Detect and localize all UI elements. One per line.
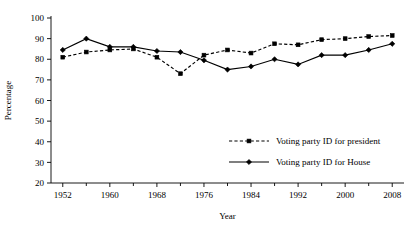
x-tick-label: 2008: [383, 190, 402, 200]
y-axis-title: Percentage: [3, 81, 13, 120]
y-tick-label: 100: [31, 13, 45, 23]
legend-label-1: Voting party ID for president: [276, 136, 381, 146]
data-point-marker: [226, 48, 230, 52]
data-point-marker: [155, 55, 159, 59]
data-point-marker: [296, 43, 300, 47]
y-tick-label: 70: [35, 75, 45, 85]
data-point-marker: [320, 38, 324, 42]
y-tick-label: 80: [35, 54, 45, 64]
y-tick-label: 30: [35, 158, 45, 168]
y-tick-label: 20: [35, 178, 45, 188]
x-tick-label: 1952: [54, 190, 72, 200]
y-tick-label: 90: [35, 34, 45, 44]
data-point-marker: [249, 51, 253, 55]
data-point-marker: [84, 50, 88, 54]
data-point-marker: [179, 72, 183, 76]
data-point-marker: [61, 55, 65, 59]
y-tick-label: 50: [35, 116, 45, 126]
legend-sample-marker-1: [247, 139, 251, 143]
x-axis-title: Year: [219, 211, 236, 221]
line-chart: 2030405060708090100 19521960196819761984…: [0, 0, 414, 231]
data-point-marker: [343, 37, 347, 41]
y-tick-label: 60: [35, 96, 45, 106]
x-tick-label: 1992: [289, 190, 307, 200]
x-tick-label: 2000: [336, 190, 355, 200]
data-point-marker: [367, 35, 371, 39]
x-tick-label: 1976: [195, 190, 214, 200]
x-tick-label: 1968: [148, 190, 167, 200]
data-point-marker: [390, 34, 394, 38]
x-tick-label: 1960: [101, 190, 120, 200]
chart-figure: 2030405060708090100 19521960196819761984…: [0, 0, 414, 231]
data-point-marker: [202, 53, 206, 57]
x-tick-label: 1984: [242, 190, 261, 200]
data-point-marker: [273, 42, 277, 46]
legend-label-2: Voting party ID for House: [276, 157, 370, 167]
y-tick-label: 40: [35, 137, 45, 147]
